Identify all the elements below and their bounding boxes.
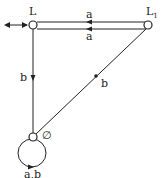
- state-empty-label: ∅: [42, 129, 52, 142]
- edge-L1-to-empty-b: [36, 29, 146, 134]
- edge-L-to-empty-b: [31, 29, 36, 133]
- edge-label-left-b: b: [20, 71, 27, 84]
- initial-state-arrow: [4, 22, 28, 28]
- state-L1-label: L1: [146, 5, 158, 20]
- edge-label-top-a: a: [86, 8, 93, 21]
- state-L1-node: [144, 21, 152, 29]
- edge-label-diag-b: b: [101, 77, 108, 90]
- edge-label-bottom-a: a: [86, 30, 93, 43]
- edge-empty-self-loop: [18, 139, 46, 170]
- state-L-node: [29, 21, 37, 29]
- automaton-diagram: L L1 ∅ a a b b a,b: [0, 0, 166, 178]
- edge-label-loop-ab: a,b: [24, 168, 41, 178]
- state-empty-node: [29, 133, 37, 141]
- state-L-label: L: [29, 5, 37, 18]
